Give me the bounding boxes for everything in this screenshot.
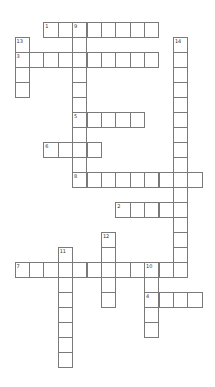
- crossword-cell[interactable]: [29, 262, 44, 278]
- clue-number: 5: [74, 113, 77, 119]
- crossword-cell[interactable]: [101, 277, 116, 293]
- clue-number: 2: [117, 203, 120, 209]
- crossword-cell[interactable]: [101, 112, 116, 128]
- crossword-cell[interactable]: 7: [15, 262, 30, 278]
- crossword-cell[interactable]: [72, 67, 87, 83]
- crossword-cell[interactable]: 14: [173, 37, 188, 53]
- crossword-cell[interactable]: [173, 247, 188, 263]
- crossword-cell[interactable]: [173, 112, 188, 128]
- crossword-cell[interactable]: 6: [43, 142, 58, 158]
- crossword-cell[interactable]: [15, 82, 30, 98]
- crossword-cell[interactable]: [101, 22, 116, 38]
- crossword-cell[interactable]: [144, 322, 159, 338]
- crossword-cell[interactable]: 12: [101, 232, 116, 248]
- crossword-cell[interactable]: [173, 172, 188, 188]
- crossword-cell[interactable]: [115, 172, 130, 188]
- crossword-cell[interactable]: [58, 352, 73, 368]
- crossword-cell[interactable]: [115, 262, 130, 278]
- crossword-cell[interactable]: [115, 52, 130, 68]
- crossword-cell[interactable]: [144, 307, 159, 323]
- crossword-cell[interactable]: 2: [115, 202, 130, 218]
- crossword-cell[interactable]: [115, 112, 130, 128]
- clue-number: 8: [74, 173, 77, 179]
- crossword-cell[interactable]: [130, 22, 145, 38]
- crossword-cell[interactable]: [101, 262, 116, 278]
- crossword-cell[interactable]: [58, 277, 73, 293]
- crossword-cell[interactable]: [187, 172, 202, 188]
- crossword-cell[interactable]: [29, 52, 44, 68]
- crossword-cell[interactable]: [130, 172, 145, 188]
- crossword-cell[interactable]: [144, 277, 159, 293]
- crossword-cell[interactable]: [173, 292, 188, 308]
- crossword-cell[interactable]: [159, 172, 174, 188]
- crossword-cell[interactable]: [101, 52, 116, 68]
- crossword-cell[interactable]: [173, 127, 188, 143]
- crossword-cell[interactable]: [187, 292, 202, 308]
- crossword-cell[interactable]: [72, 82, 87, 98]
- crossword-cell[interactable]: [87, 142, 102, 158]
- clue-number: 14: [175, 38, 181, 44]
- clue-number: 13: [17, 38, 23, 44]
- crossword-cell[interactable]: [43, 262, 58, 278]
- crossword-cell[interactable]: [173, 187, 188, 203]
- crossword-cell[interactable]: [173, 97, 188, 113]
- crossword-cell[interactable]: [87, 112, 102, 128]
- crossword-cell[interactable]: [101, 172, 116, 188]
- crossword-cell[interactable]: [159, 292, 174, 308]
- crossword-cell[interactable]: [101, 292, 116, 308]
- crossword-cell[interactable]: [43, 52, 58, 68]
- crossword-cell[interactable]: 9: [72, 22, 87, 38]
- crossword-cell[interactable]: [72, 127, 87, 143]
- crossword-cell[interactable]: [58, 142, 73, 158]
- crossword-cell[interactable]: [87, 52, 102, 68]
- crossword-cell[interactable]: [58, 337, 73, 353]
- crossword-cell[interactable]: [101, 247, 116, 263]
- crossword-cell[interactable]: [173, 142, 188, 158]
- crossword-cell[interactable]: [159, 262, 174, 278]
- crossword-cell[interactable]: [159, 202, 174, 218]
- crossword-cell[interactable]: [173, 262, 188, 278]
- crossword-cell[interactable]: [58, 52, 73, 68]
- crossword-cell[interactable]: [72, 52, 87, 68]
- crossword-cell[interactable]: [173, 202, 188, 218]
- crossword-cell[interactable]: [58, 322, 73, 338]
- crossword-cell[interactable]: [72, 97, 87, 113]
- clue-number: 9: [74, 23, 77, 29]
- crossword-cell[interactable]: 11: [58, 247, 73, 263]
- crossword-cell[interactable]: [58, 262, 73, 278]
- crossword-cell[interactable]: [144, 22, 159, 38]
- crossword-cell[interactable]: [87, 22, 102, 38]
- crossword-cell[interactable]: [130, 262, 145, 278]
- crossword-cell[interactable]: [72, 157, 87, 173]
- crossword-cell[interactable]: [173, 82, 188, 98]
- crossword-cell[interactable]: [72, 142, 87, 158]
- crossword-cell[interactable]: [173, 232, 188, 248]
- crossword-cell[interactable]: [58, 307, 73, 323]
- crossword-cell[interactable]: 10: [144, 262, 159, 278]
- crossword-cell[interactable]: 4: [144, 292, 159, 308]
- crossword-cell[interactable]: [173, 157, 188, 173]
- crossword-cell[interactable]: [144, 202, 159, 218]
- crossword-cell[interactable]: [115, 22, 130, 38]
- crossword-cell[interactable]: [130, 202, 145, 218]
- crossword-cell[interactable]: 5: [72, 112, 87, 128]
- clue-number: 1: [45, 23, 48, 29]
- crossword-cell[interactable]: [144, 52, 159, 68]
- crossword-cell[interactable]: [173, 217, 188, 233]
- crossword-cell[interactable]: [130, 52, 145, 68]
- crossword-cell[interactable]: 1: [43, 22, 58, 38]
- crossword-cell[interactable]: [15, 67, 30, 83]
- crossword-cell[interactable]: [72, 262, 87, 278]
- crossword-cell[interactable]: [173, 67, 188, 83]
- crossword-cell[interactable]: 8: [72, 172, 87, 188]
- crossword-cell[interactable]: [72, 37, 87, 53]
- crossword-cell[interactable]: [144, 172, 159, 188]
- crossword-cell[interactable]: [130, 112, 145, 128]
- crossword-cell[interactable]: 3: [15, 52, 30, 68]
- crossword-cell[interactable]: [173, 52, 188, 68]
- crossword-cell[interactable]: [58, 22, 73, 38]
- crossword-cell[interactable]: [87, 262, 102, 278]
- crossword-cell[interactable]: 13: [15, 37, 30, 53]
- crossword-cell[interactable]: [87, 172, 102, 188]
- crossword-cell[interactable]: [58, 292, 73, 308]
